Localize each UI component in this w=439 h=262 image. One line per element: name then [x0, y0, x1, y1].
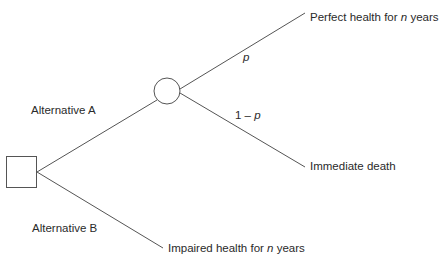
probability-1-minus-p-label: 1 – p: [235, 109, 261, 122]
alternative-b-label: Alternative B: [32, 222, 97, 235]
decision-node-square: [7, 157, 37, 188]
outcome-immediate-death-label: Immediate death: [310, 160, 396, 173]
variable-p: p: [254, 109, 260, 121]
probability-prefix: 1 –: [235, 109, 254, 121]
alternative-a-label: Alternative A: [31, 104, 96, 117]
outcome-perfect-health-label: Perfect health for n years: [310, 11, 439, 24]
outcome-text: years: [407, 11, 438, 23]
branch-1-minus-p-line: [180, 93, 305, 167]
branch-alternative-b-line: [37, 172, 163, 248]
outcome-text: Perfect health for: [310, 11, 401, 23]
outcome-text: Impaired health for: [168, 242, 267, 254]
chance-node-circle: [154, 78, 180, 104]
variable-p: p: [243, 51, 249, 63]
probability-p-label: p: [243, 51, 249, 64]
outcome-impaired-health-label: Impaired health for n years: [168, 242, 305, 255]
outcome-text: years: [274, 242, 305, 254]
